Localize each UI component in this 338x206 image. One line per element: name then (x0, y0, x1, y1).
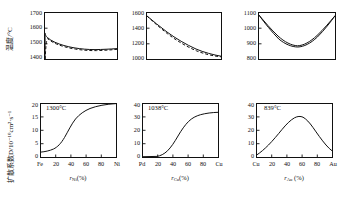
ytick-1700: 1700 (10, 9, 42, 16)
figure-container: 温度/°C 1700 1600 1500 1400 1600 1400 1200… (0, 0, 338, 206)
ytick-1400: 1400 (112, 24, 144, 31)
xaxis-unit-percent: (%) (292, 174, 303, 181)
ytick-15: 15 (12, 113, 38, 120)
annotation-temperature-1038: 1038°C (148, 104, 168, 111)
ytick-1600: 1600 (10, 23, 42, 30)
curve-liquidus-fe-ni (45, 33, 117, 49)
ytick-20: 20 (114, 126, 140, 133)
xaxis-title-r-cu: rCu(%) (150, 174, 210, 182)
panel-cu-au-phase-diagram: 1100 1000 900 800 (226, 0, 338, 80)
ytick-20: 20 (228, 126, 254, 133)
ytick-0: 0 (228, 152, 254, 159)
ytick-0: 0 (114, 152, 140, 159)
ytick-1000: 1000 (112, 54, 144, 61)
ytick-30: 30 (228, 113, 254, 120)
panel-pd-cu-phase-diagram: 1600 1400 1200 1000 (112, 0, 224, 80)
ytick-900: 900 (226, 39, 256, 46)
annotation-temperature-839: 839°C (264, 104, 281, 111)
xaxis-title-r-au: rAu (%) (264, 174, 324, 182)
xtick-au: Au (321, 160, 338, 167)
ytick-10: 10 (228, 139, 254, 146)
xaxis-unit-percent: (%) (77, 174, 87, 181)
ytick-40: 40 (228, 101, 254, 108)
panel-fe-ni-diffusion: 20 15 10 5 0 1300°C Fe 20 40 60 80 Ni rN… (0, 96, 120, 206)
ytick-1200: 1200 (112, 39, 144, 46)
panel-pd-cu-diffusion: 40 30 20 10 0 1038°C Pd 20 40 60 80 Cu r… (112, 96, 224, 206)
ytick-800: 800 (226, 54, 256, 61)
ytick-1600: 1600 (112, 9, 144, 16)
annotation-temperature-1300: 1300°C (46, 104, 66, 111)
ytick-0: 0 (12, 152, 38, 159)
curve-solidus-cu-au (259, 15, 335, 47)
ytick-1100: 1100 (226, 9, 256, 16)
ytick-1000: 1000 (226, 24, 256, 31)
curve-diffusion-pd-cu (143, 112, 218, 156)
ytick-1400: 1400 (10, 53, 42, 60)
curve-solidus-pd-cu (147, 16, 221, 57)
panel-cu-au-diffusion: 40 30 20 10 0 839°C Cu 20 40 60 80 Au rA… (226, 96, 338, 206)
ytick-10: 10 (12, 126, 38, 133)
ytick-40: 40 (114, 101, 140, 108)
xaxis-unit-percent: (%) (179, 174, 189, 181)
xaxis-title-r-ni: rNi(%) (48, 174, 108, 182)
panel-fe-ni-phase-diagram: 1700 1600 1500 1400 (0, 0, 120, 80)
ytick-20: 20 (12, 101, 38, 108)
ytick-5: 5 (12, 139, 38, 146)
ytick-10: 10 (114, 139, 140, 146)
ytick-30: 30 (114, 113, 140, 120)
curve-diffusion-cu-au (257, 116, 332, 154)
curve-liquidus-pd-cu (147, 16, 221, 56)
ytick-1500: 1500 (10, 38, 42, 45)
